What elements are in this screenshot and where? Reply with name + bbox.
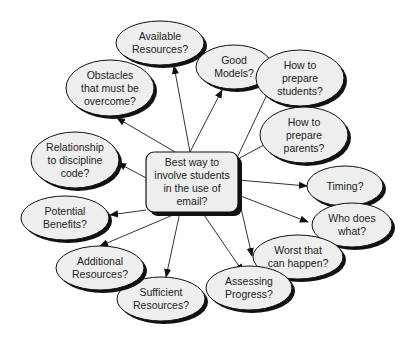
edge-to-discipline-code bbox=[118, 163, 150, 180]
edge-to-good-models bbox=[190, 90, 222, 152]
central-question-box[interactable]: Best way toinvolve studentsin the use of… bbox=[146, 152, 242, 216]
node-available-resources[interactable]: AvailableResources? bbox=[116, 21, 207, 68]
node-potential-benefits[interactable]: PotentialBenefits? bbox=[21, 196, 112, 243]
node-discipline-code[interactable]: Relationshipto disciplinecode? bbox=[31, 132, 122, 191]
node-label: AssessingProgress? bbox=[225, 275, 273, 300]
edge-to-who-does-what bbox=[238, 195, 308, 222]
node-prepare-students[interactable]: How topreparestudents? bbox=[256, 50, 347, 109]
node-label: PotentialBenefits? bbox=[43, 205, 87, 230]
node-label: Worst thatcan happen? bbox=[268, 244, 329, 269]
node-label: Obstaclesthat must beovercome? bbox=[81, 69, 139, 107]
edge-to-sufficient-resources bbox=[166, 212, 180, 277]
node-obstacles[interactable]: Obstaclesthat must beovercome? bbox=[66, 60, 157, 119]
node-prepare-parents[interactable]: How toprepareparents? bbox=[260, 107, 351, 166]
edge-to-timing bbox=[238, 180, 307, 186]
node-additional-resources[interactable]: AdditionalResources? bbox=[56, 246, 147, 293]
node-label: How topreparestudents? bbox=[277, 59, 323, 97]
node-label: AvailableResources? bbox=[132, 30, 188, 55]
node-label: SufficientResources? bbox=[133, 286, 189, 311]
node-label: AdditionalResources? bbox=[72, 255, 128, 280]
edge-to-assessing-progress bbox=[202, 212, 243, 272]
node-label: Timing? bbox=[327, 180, 364, 192]
concept-map-canvas: AvailableResources?GoodModels?How toprep… bbox=[0, 0, 417, 339]
edge-to-potential-benefits bbox=[110, 210, 146, 215]
node-timing[interactable]: Timing? bbox=[307, 166, 386, 209]
node-label: How toprepareparents? bbox=[284, 116, 325, 154]
edge-to-available-resources bbox=[174, 66, 190, 152]
edge-to-additional-resources bbox=[100, 212, 180, 246]
edge-to-obstacles bbox=[117, 118, 175, 152]
